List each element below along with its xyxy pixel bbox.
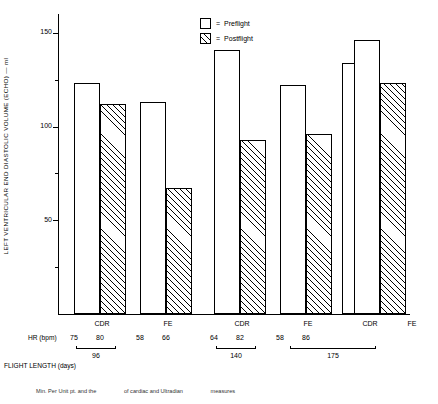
hr-g2-cdr-post: 82: [227, 334, 253, 341]
flight-length-g2: 140: [216, 352, 256, 359]
legend-equals-postflight: =: [216, 35, 220, 42]
y-tick-100: [53, 127, 58, 128]
hr-g2-fe-post: 86: [293, 334, 319, 341]
bar-preflight-g3-cdr: [342, 63, 368, 314]
flight-length-g3: 175: [313, 352, 353, 359]
bar-preflight-g2-cdr: [214, 50, 240, 314]
group-label-g2-cdr: CDR: [222, 320, 262, 327]
bar-preflight-g1-cdr: [74, 83, 100, 314]
legend-label-postflight: Postflight: [224, 35, 253, 42]
x-axis-line: [58, 314, 410, 315]
group-label-g1-cdr: CDR: [82, 320, 122, 327]
hr-g1-fe-pre: 58: [127, 334, 153, 341]
legend-swatch-postflight-icon: [200, 33, 211, 44]
legend-item-postflight: = Postflight: [200, 33, 253, 44]
y-tick-150: [53, 33, 58, 34]
caption-part-1: Min. Per Unit pt. and the: [36, 388, 96, 394]
y-tick-minor-25: [55, 267, 58, 268]
flight-length-row-label: FLIGHT LENGTH (days): [4, 362, 76, 369]
hr-brace-g3: [290, 346, 376, 349]
group-label-g3-fe: FE: [392, 320, 432, 327]
legend-equals-preflight: =: [216, 20, 220, 27]
bar-postflight-g1-fe: [166, 188, 192, 314]
figure-caption: Min. Per Unit pt. and the of cardiac and…: [36, 388, 261, 394]
plot-area: 150 100 50: [58, 14, 410, 314]
legend-item-preflight: = Preflight: [200, 18, 253, 29]
hr-g1-cdr-pre: 75: [61, 334, 87, 341]
hr-g1-fe-post: 66: [153, 334, 179, 341]
flight-length-g1: 96: [76, 352, 116, 359]
bar-postflight-g2-cdr: [240, 140, 266, 314]
bar-postflight-g1-cdr: [100, 104, 126, 314]
group-label-g2-fe: FE: [288, 320, 328, 327]
y-tick-minor-75: [55, 173, 58, 174]
y-tick-minor-125: [55, 80, 58, 81]
y-tick-50: [53, 220, 58, 221]
hr-g2-fe-pre: 58: [267, 334, 293, 341]
y-tick-label-100: 100: [22, 122, 52, 129]
group-label-g1-fe: FE: [148, 320, 188, 327]
hr-brace-g2: [216, 346, 256, 349]
hr-row-label: HR (bpm): [28, 334, 57, 341]
y-axis-title: LEFT VENTRICULAR END DIASTOLIC VOLUME (E…: [2, 46, 9, 266]
chart-figure: LEFT VENTRICULAR END DIASTOLIC VOLUME (E…: [0, 0, 438, 404]
caption-part-3: measures: [211, 388, 236, 394]
hr-brace-g1: [76, 346, 116, 349]
hr-g2-cdr-pre: 64: [201, 334, 227, 341]
group-label-g3-cdr: CDR: [350, 320, 390, 327]
bar-postflight-g3-cdr: [368, 142, 394, 315]
bar-preflight-g2-fe: [280, 85, 306, 314]
bar-postflight-g2-fe: [306, 134, 332, 314]
hr-g1-cdr-post: 80: [87, 334, 113, 341]
legend: = Preflight = Postflight: [200, 18, 253, 48]
legend-swatch-preflight-icon: [200, 18, 211, 29]
caption-part-2: of cardiac and Ultradian: [124, 388, 183, 394]
y-tick-label-150: 150: [22, 28, 52, 35]
y-tick-label-50: 50: [22, 216, 52, 223]
y-axis-line: [58, 14, 59, 314]
legend-label-preflight: Preflight: [224, 20, 250, 27]
bar-preflight-g1-fe: [140, 102, 166, 314]
